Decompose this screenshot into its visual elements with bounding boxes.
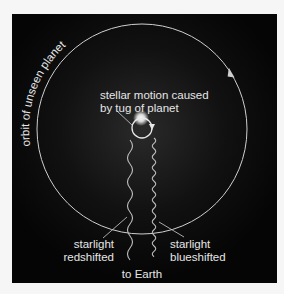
blueshift-label-line1: starlight (170, 238, 211, 250)
blueshift-label-line2: blueshifted (170, 251, 226, 263)
diagram-panel: orbit of unseen planet stellar motion ca… (12, 14, 277, 283)
redshift-label-line1: starlight (74, 238, 115, 250)
stellar-motion-label-line2: by tug of planet (100, 102, 179, 114)
doppler-diagram: orbit of unseen planet stellar motion ca… (12, 14, 277, 283)
to-earth-label: to Earth (122, 268, 162, 280)
redshift-label-line2: redshifted (63, 251, 114, 263)
figure-frame: orbit of unseen planet stellar motion ca… (0, 0, 284, 294)
stellar-motion-label-line1: stellar motion caused (100, 89, 209, 101)
